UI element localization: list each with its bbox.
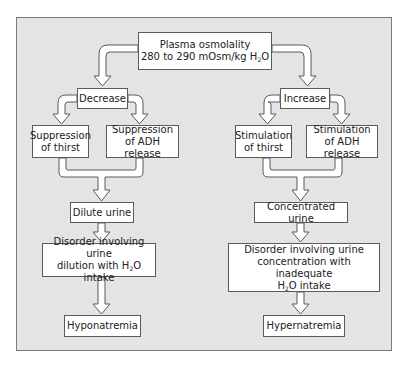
stimulation-adh-line1: Stimulation [307, 124, 377, 136]
increase-box: Increase [280, 88, 330, 109]
stimulation-adh-line2: of ADH release [307, 136, 377, 160]
concentration-disorder-box: Disorder involving urine concentration w… [228, 243, 380, 292]
hyponatremia-label: Hyponatremia [67, 320, 138, 332]
dilute-urine-label: Dilute urine [73, 207, 132, 219]
dilution-disorder-box: Disorder involving urine dilution with H… [42, 243, 156, 277]
suppression-thirst-box: Suppression of thirst [32, 125, 89, 158]
dilute-urine-box: Dilute urine [70, 202, 134, 223]
suppression-adh-box: Suppression of ADH release [106, 125, 179, 158]
increase-label: Increase [284, 93, 326, 105]
dilution-disorder-line1: Disorder involving urine [43, 236, 155, 260]
concentrated-urine-label: Concentrated urine [255, 201, 347, 225]
concentration-disorder-line2: concentration with inadequate [229, 256, 379, 280]
hypernatremia-label: Hypernatremia [267, 320, 342, 332]
stimulation-thirst-line2: of thirst [235, 142, 292, 154]
concentration-disorder-line1: Disorder involving urine [229, 244, 379, 256]
stimulation-thirst-line1: Stimulation [235, 130, 292, 142]
suppression-thirst-line2: of thirst [30, 142, 91, 154]
concentrated-urine-box: Concentrated urine [254, 202, 348, 223]
decrease-box: Decrease [77, 88, 128, 109]
concentration-disorder-line3: H2O intake [229, 280, 379, 292]
suppression-adh-line2: of ADH release [107, 136, 178, 160]
suppression-adh-line1: Suppression [107, 124, 178, 136]
decrease-label: Decrease [79, 93, 126, 105]
plasma-osmolality-range: 280 to 290 mOsm/kg H2O [141, 51, 269, 63]
suppression-thirst-line1: Suppression [30, 130, 91, 142]
stimulation-adh-box: Stimulation of ADH release [306, 125, 378, 158]
plasma-osmolality-title: Plasma osmolality [141, 39, 269, 51]
dilution-disorder-line2: dilution with H2O intake [43, 260, 155, 284]
hyponatremia-box: Hyponatremia [64, 315, 141, 337]
stimulation-thirst-box: Stimulation of thirst [235, 125, 292, 158]
hypernatremia-box: Hypernatremia [263, 315, 345, 337]
plasma-osmolality-box: Plasma osmolality 280 to 290 mOsm/kg H2O [138, 32, 272, 70]
